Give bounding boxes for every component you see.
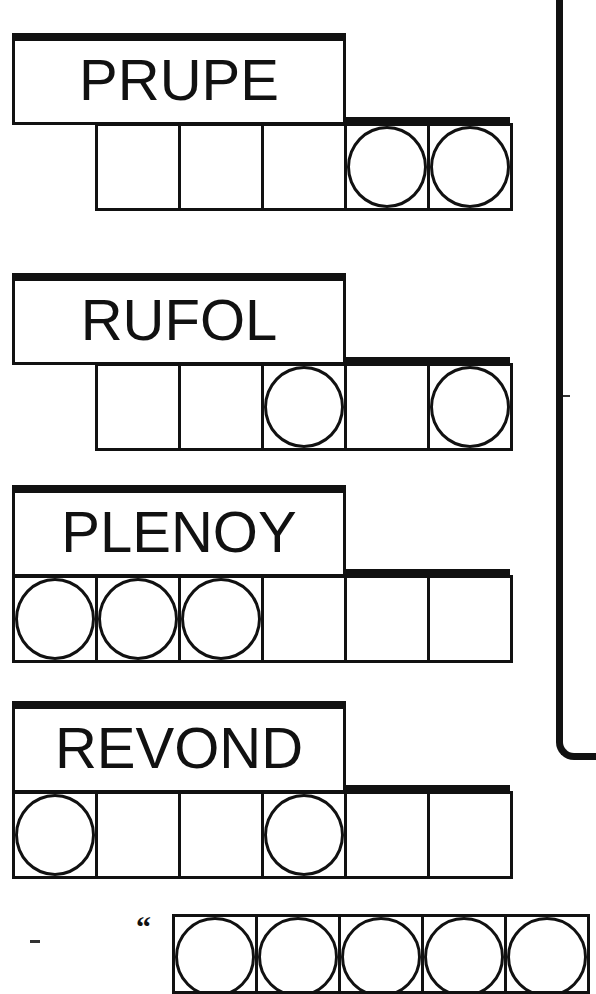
letter-cell[interactable] [427, 575, 513, 663]
letter-cell[interactable] [178, 123, 264, 211]
circle-marker-icon [264, 366, 344, 448]
final-answer-cell[interactable] [255, 914, 341, 994]
cartoon-panel-border [556, 0, 596, 760]
scrambled-word: RUFOL [81, 291, 278, 349]
circled-letter-cell[interactable] [261, 363, 347, 451]
answer-cells [12, 363, 510, 451]
circle-marker-icon [430, 126, 510, 208]
scrambled-word-box: RUFOL [12, 273, 346, 365]
circle-marker-icon [507, 917, 587, 994]
circled-letter-cell[interactable] [261, 791, 347, 879]
circle-marker-icon [175, 917, 255, 994]
empty-slot [12, 123, 98, 211]
letter-cell[interactable] [427, 791, 513, 879]
circled-letter-cell[interactable] [344, 123, 430, 211]
circle-marker-icon [258, 917, 338, 994]
scrambled-word: PRUPE [79, 51, 279, 109]
letter-cell[interactable] [344, 791, 430, 879]
letter-cell[interactable] [178, 791, 264, 879]
final-answer-cell[interactable] [421, 914, 507, 994]
circle-marker-icon [15, 578, 95, 660]
scrambled-word: PLENOY [61, 503, 296, 561]
answer-cells [12, 575, 510, 663]
answer-cells [12, 791, 510, 879]
circle-marker-icon [430, 366, 510, 448]
letter-cell[interactable] [95, 123, 181, 211]
circle-marker-icon [98, 578, 178, 660]
answer-opening-quote: “ [136, 912, 151, 942]
answer-cells [12, 123, 510, 211]
circle-marker-icon [15, 794, 95, 876]
scrambled-word-box: REVOND [12, 701, 346, 793]
empty-slot [12, 363, 98, 451]
letter-cell[interactable] [344, 363, 430, 451]
scrambled-word-box: PLENOY [12, 485, 346, 577]
cartoon-panel-tick [563, 395, 570, 397]
scrambled-word: REVOND [55, 719, 303, 777]
letter-cell[interactable] [178, 363, 264, 451]
circled-letter-cell[interactable] [95, 575, 181, 663]
circle-marker-icon [347, 126, 427, 208]
circled-letter-cell[interactable] [427, 123, 513, 211]
circle-marker-icon [341, 917, 421, 994]
letter-cell[interactable] [95, 363, 181, 451]
circled-letter-cell[interactable] [178, 575, 264, 663]
final-answer-cell[interactable] [172, 914, 258, 994]
letter-cell[interactable] [95, 791, 181, 879]
letter-cell[interactable] [344, 575, 430, 663]
circle-marker-icon [424, 917, 504, 994]
circled-letter-cell[interactable] [427, 363, 513, 451]
final-answer-row [172, 914, 592, 974]
final-answer-cell[interactable] [338, 914, 424, 994]
cut-off-text-fragment [30, 940, 40, 943]
letter-cell[interactable] [261, 123, 347, 211]
circle-marker-icon [264, 794, 344, 876]
circled-letter-cell[interactable] [12, 575, 98, 663]
scrambled-word-box: PRUPE [12, 33, 346, 125]
final-answer-cell[interactable] [504, 914, 590, 994]
letter-cell[interactable] [261, 575, 347, 663]
circle-marker-icon [181, 578, 261, 660]
circled-letter-cell[interactable] [12, 791, 98, 879]
